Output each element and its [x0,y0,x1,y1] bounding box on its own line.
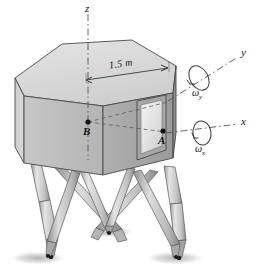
axis-label-x: x [241,116,246,127]
omega-y-symbol: ω [192,87,199,98]
axis-label-z: z [85,3,89,14]
axis-y-line [168,57,238,101]
window-panel [137,95,166,160]
axis-x-line [166,124,238,133]
omega-y-subscript: y [199,93,202,101]
omega-x-subscript: x [202,149,205,157]
omega-y-label: ωy [192,88,202,101]
lander-illustration [0,0,255,280]
omega-x-label: ωx [195,144,205,157]
point-A-marker [160,128,165,133]
body-face-front-left [24,96,103,175]
point-B-marker [85,119,90,124]
omega-x-symbol: ω [195,143,202,154]
lander-figure: z y x 1.5 m B A ωy ωx [0,0,255,280]
axis-label-y: y [241,47,246,58]
landing-legs [31,163,186,260]
point-label-A: A [158,135,165,146]
body-top-face [15,40,176,106]
point-label-B: B [83,126,90,137]
